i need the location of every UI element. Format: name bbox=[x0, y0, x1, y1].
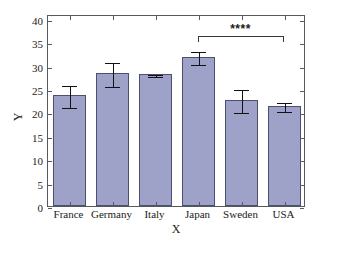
x-tick-bottom-france bbox=[70, 202, 71, 206]
y-tick-right-0 bbox=[300, 208, 304, 209]
error-cap-italy-lower bbox=[148, 77, 163, 78]
y-tick-25 bbox=[48, 91, 52, 92]
y-tick-label-15: 15 bbox=[32, 132, 43, 143]
x-category-label-usa: USA bbox=[272, 209, 294, 220]
y-tick-label-30: 30 bbox=[32, 62, 43, 73]
error-cap-usa-lower bbox=[277, 112, 292, 113]
x-tick-bottom-sweden bbox=[242, 202, 243, 206]
x-tick-top-italy bbox=[156, 16, 157, 20]
y-tick-15 bbox=[48, 138, 52, 139]
x-tick-top-germany bbox=[113, 16, 114, 20]
x-category-label-japan: Japan bbox=[185, 209, 210, 220]
x-tick-top-sweden bbox=[242, 16, 243, 20]
error-bar-japan bbox=[199, 52, 200, 66]
x-category-label-sweden: Sweden bbox=[223, 209, 258, 220]
bar-group-sweden bbox=[220, 16, 263, 206]
y-tick-label-0: 0 bbox=[38, 203, 44, 214]
x-tick-top-usa bbox=[285, 16, 286, 20]
error-cap-france-lower bbox=[62, 108, 77, 109]
y-tick-right-30 bbox=[300, 68, 304, 69]
x-tick-bottom-usa bbox=[285, 202, 286, 206]
y-tick-35 bbox=[48, 44, 52, 45]
bar-usa bbox=[268, 106, 301, 206]
bar-sweden bbox=[225, 100, 258, 206]
error-bar-france bbox=[70, 86, 71, 108]
y-tick-right-35 bbox=[300, 44, 304, 45]
y-tick-label-20: 20 bbox=[32, 109, 43, 120]
error-cap-germany-upper bbox=[105, 63, 120, 64]
x-axis-title: X bbox=[172, 223, 181, 235]
bar-group-japan bbox=[177, 16, 220, 206]
error-cap-sweden-lower bbox=[234, 113, 249, 114]
error-bar-usa bbox=[285, 103, 286, 113]
y-tick-right-20 bbox=[300, 114, 304, 115]
x-tick-top-france bbox=[70, 16, 71, 20]
x-category-label-france: France bbox=[54, 209, 84, 220]
y-tick-label-5: 5 bbox=[38, 179, 44, 190]
y-tick-right-40 bbox=[300, 21, 304, 22]
bar-chart-figure: 0510152025303540 FranceGermanyItalyJapan… bbox=[0, 0, 361, 255]
plot-area: 0510152025303540 bbox=[47, 15, 305, 207]
x-tick-bottom-japan bbox=[199, 202, 200, 206]
significance-bracket bbox=[198, 36, 284, 42]
error-cap-japan-upper bbox=[191, 52, 206, 53]
error-cap-germany-lower bbox=[105, 87, 120, 88]
x-category-label-germany: Germany bbox=[91, 209, 132, 220]
bar-group-italy bbox=[134, 16, 177, 206]
bar-group-germany bbox=[91, 16, 134, 206]
y-tick-right-5 bbox=[300, 185, 304, 186]
error-cap-italy-upper bbox=[148, 75, 163, 76]
y-tick-label-40: 40 bbox=[32, 15, 43, 26]
error-cap-sweden-upper bbox=[234, 90, 249, 91]
error-bar-sweden bbox=[242, 90, 243, 113]
x-category-label-italy: Italy bbox=[144, 209, 164, 220]
y-axis-title: Y bbox=[12, 113, 24, 122]
bar-group-france bbox=[48, 16, 91, 206]
y-tick-10 bbox=[48, 161, 52, 162]
y-tick-label-25: 25 bbox=[32, 85, 43, 96]
significance-stars-label: **** bbox=[230, 23, 251, 35]
bar-japan bbox=[182, 57, 215, 206]
error-cap-japan-lower bbox=[191, 65, 206, 66]
x-tick-bottom-germany bbox=[113, 202, 114, 206]
y-tick-right-15 bbox=[300, 138, 304, 139]
y-tick-label-10: 10 bbox=[32, 156, 43, 167]
bar-france bbox=[53, 95, 86, 206]
error-cap-usa-upper bbox=[277, 103, 292, 104]
bar-germany bbox=[96, 73, 129, 206]
y-tick-label-35: 35 bbox=[32, 39, 43, 50]
y-tick-right-10 bbox=[300, 161, 304, 162]
y-tick-30 bbox=[48, 68, 52, 69]
bars-layer bbox=[48, 16, 304, 206]
error-cap-france-upper bbox=[62, 86, 77, 87]
bar-italy bbox=[139, 74, 172, 206]
x-tick-top-japan bbox=[199, 16, 200, 20]
x-tick-bottom-italy bbox=[156, 202, 157, 206]
y-tick-0 bbox=[48, 208, 52, 209]
y-tick-40 bbox=[48, 21, 52, 22]
y-tick-5 bbox=[48, 185, 52, 186]
error-bar-germany bbox=[113, 63, 114, 87]
y-tick-20 bbox=[48, 114, 52, 115]
y-tick-right-25 bbox=[300, 91, 304, 92]
